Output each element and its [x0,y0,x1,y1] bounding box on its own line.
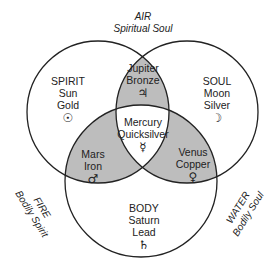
svg-text:Silver: Silver [204,99,231,111]
svg-text:Saturn: Saturn [129,214,160,226]
region-spirit: SPIRIT Sun Gold ☉ [51,75,85,125]
svg-text:Iron: Iron [84,160,102,172]
svg-text:Lead: Lead [132,226,156,238]
svg-text:BODY: BODY [129,202,159,214]
venus-symbol-icon: ♀ [189,170,198,184]
svg-text:SOUL: SOUL [203,75,232,87]
svg-text:Gold: Gold [57,99,79,111]
svg-text:Mars: Mars [81,148,104,160]
moon-symbol-icon: ☽ [212,111,223,125]
venn-diagram: AIR Spiritual Soul FIRE Bodily Spirit WA… [0,0,277,270]
svg-text:Sun: Sun [59,87,78,99]
svg-text:Jupiter: Jupiter [127,62,159,74]
air-title: AIR [134,11,152,22]
svg-text:Moon: Moon [204,87,230,99]
mars-symbol-icon: ♂ [88,172,99,186]
region-soul: SOUL Moon Silver ☽ [203,75,232,125]
region-body: BODY Saturn Lead ♄ [129,202,160,252]
jupiter-symbol-icon: ♃ [138,86,149,100]
saturn-symbol-icon: ♄ [139,238,150,252]
svg-text:Mercury: Mercury [124,116,163,128]
svg-text:Quicksilver: Quicksilver [117,128,169,140]
svg-text:Bronze: Bronze [126,74,159,86]
svg-text:Venus: Venus [178,146,207,158]
air-subtitle: Spiritual Soul [114,23,174,34]
sun-symbol-icon: ☉ [63,111,74,125]
svg-text:SPIRIT: SPIRIT [51,75,85,87]
mercury-symbol-icon: ☿ [139,140,146,154]
svg-text:Copper: Copper [176,158,211,170]
